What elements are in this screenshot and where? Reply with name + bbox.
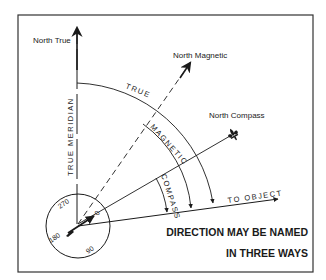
deg-90-label: 90 (85, 245, 95, 255)
fleur-de-lis-icon (226, 126, 242, 142)
caption-line-1: DIRECTION MAY BE NAMED (166, 226, 308, 238)
compass-needle (66, 216, 94, 237)
north-compass-label: North Compass (209, 111, 265, 120)
deg-180-label: 180 (48, 231, 62, 243)
direction-diagram: North True North Magnetic North Compass … (0, 0, 326, 280)
caption-line-2: IN THREE WAYS (226, 247, 308, 259)
deg-0-label: 0 (93, 209, 101, 216)
deg-270-label: 270 (57, 197, 71, 209)
north-true-label: North True (33, 36, 71, 45)
magnetic-arc-label: MAGNETIC (149, 122, 190, 166)
diagram-canvas: North True North Magnetic North Compass … (0, 0, 326, 280)
north-magnetic-label: North Magnetic (173, 51, 227, 60)
true-meridian-label: TRUE MERIDIAN (66, 97, 75, 176)
true-arc-label: TRUE (124, 82, 152, 100)
